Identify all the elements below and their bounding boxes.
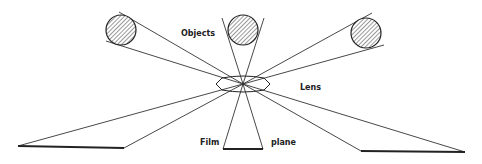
middle-object-circle xyxy=(228,15,258,45)
left-film-image xyxy=(18,146,124,148)
left-object-circle xyxy=(106,15,136,45)
plane-label: plane xyxy=(271,138,297,147)
lens-label: Lens xyxy=(300,83,321,92)
right-film-image xyxy=(361,151,465,152)
film-label: Film xyxy=(200,138,219,147)
left-object-rays xyxy=(106,12,465,152)
right-object-circle xyxy=(351,18,381,48)
lens-imaging-diagram: Objects Lens Film plane xyxy=(0,0,482,164)
objects-label: Objects xyxy=(181,29,215,38)
